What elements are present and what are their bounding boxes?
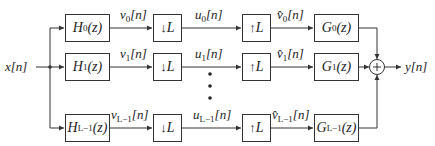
input-label: x[n] xyxy=(5,60,27,73)
analysis-filter-h0: H0(z) xyxy=(65,14,110,42)
signal-vhatL-1: v̂L−1[n] xyxy=(272,108,309,124)
signal-u0: u0[n] xyxy=(195,8,223,24)
signal-v1: v1[n] xyxy=(120,47,147,63)
signal-uL-1: uL−1[n] xyxy=(193,108,231,124)
signal-vhat0: v̂0[n] xyxy=(277,8,304,24)
expander-1: ↑L xyxy=(242,53,271,81)
expander-L-1: ↑L xyxy=(242,114,271,142)
decimator-1: ↓L xyxy=(153,53,182,81)
synthesis-filter-g1: G1(z) xyxy=(314,53,359,81)
expander-0: ↑L xyxy=(242,14,271,42)
signal-u1: u1[n] xyxy=(195,47,223,63)
analysis-filter-h1: H1(z) xyxy=(65,53,110,81)
output-label: y[n] xyxy=(405,60,427,73)
synthesis-filter-g0: G0(z) xyxy=(314,14,359,42)
signal-vL-1: vL−1[n] xyxy=(111,108,148,124)
decimator-L-1: ↓L xyxy=(153,114,182,142)
signal-vhat1: v̂1[n] xyxy=(277,47,304,63)
signal-v0: v0[n] xyxy=(120,8,147,24)
decimator-0: ↓L xyxy=(153,14,182,42)
ellipsis-dot xyxy=(208,72,212,76)
analysis-filter-hL-1: HL−1(z) xyxy=(65,114,110,142)
synthesis-filter-gL-1: GL−1(z) xyxy=(314,114,359,142)
